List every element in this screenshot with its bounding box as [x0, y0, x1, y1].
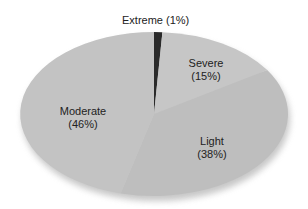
label-moderate-name: Moderate: [55, 105, 111, 118]
pie-chart: [0, 0, 308, 209]
label-light-name: Light: [192, 135, 232, 148]
label-moderate-pct: (46%): [55, 118, 111, 131]
label-severe-name: Severe: [186, 57, 226, 70]
label-severe: Severe (15%): [186, 57, 226, 83]
label-light: Light (38%): [192, 135, 232, 161]
label-moderate: Moderate (46%): [55, 105, 111, 131]
label-extreme: Extreme (1%): [122, 14, 189, 27]
label-light-pct: (38%): [192, 148, 232, 161]
label-severe-pct: (15%): [186, 70, 226, 83]
